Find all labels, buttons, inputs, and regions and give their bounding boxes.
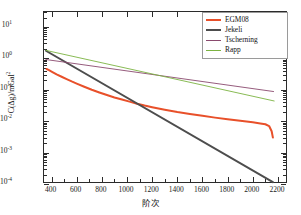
- y-tick-mark: [44, 184, 49, 185]
- y-tick-label-mantissa: 10: [0, 146, 8, 155]
- y-tick-label-exponent: -2: [8, 113, 13, 119]
- y-axis-title-base: C(Δg)/mGal: [7, 74, 16, 113]
- legend-swatch-jekeli: [206, 29, 221, 31]
- y-tick-label: 10-1: [0, 84, 12, 92]
- y-tick-label-exponent: -1: [8, 81, 13, 87]
- y-tick-label: 10-3: [0, 147, 12, 155]
- y-tick-label-exponent: -3: [8, 144, 13, 150]
- legend-item-tscherning[interactable]: Tscherning: [206, 35, 284, 45]
- series-line-jekeli: [46, 51, 273, 182]
- x-axis-title: 阶次: [0, 196, 301, 208]
- y-tick-label-exponent: 0: [9, 50, 12, 56]
- legend-swatch-egm08: [206, 19, 221, 21]
- y-tick-label: 100: [2, 52, 12, 60]
- legend-label: Jekeli: [225, 26, 242, 33]
- legend-item-rapp[interactable]: Rapp: [206, 45, 284, 55]
- legend: EGM08JekeliTscherningRapp: [202, 12, 288, 59]
- legend-label: Tscherning: [225, 36, 258, 43]
- legend-label: EGM08: [225, 16, 249, 23]
- series-line-egm08: [47, 69, 273, 138]
- figure-canvas: C(Δg)/mGal2 阶次 10110010-110-210-310-4 40…: [0, 0, 301, 215]
- y-tick-label: 10-4: [0, 178, 12, 186]
- y-tick-mark: [281, 184, 286, 185]
- legend-swatch-rapp: [206, 50, 221, 51]
- legend-label: Rapp: [225, 46, 241, 53]
- y-tick-label: 10-2: [0, 115, 12, 123]
- y-tick-label-exponent: 1: [9, 18, 12, 24]
- legend-item-egm08[interactable]: EGM08: [206, 15, 284, 25]
- y-tick-label-mantissa: 10: [0, 114, 8, 123]
- y-tick-label: 101: [2, 21, 12, 29]
- x-tick-label: 2200: [260, 186, 294, 194]
- y-tick-label-mantissa: 10: [0, 83, 8, 92]
- legend-item-jekeli[interactable]: Jekeli: [206, 25, 284, 35]
- y-axis-title-exponent: 2: [5, 72, 11, 75]
- y-tick-label-exponent: -4: [8, 176, 13, 182]
- legend-swatch-tscherning: [206, 40, 221, 41]
- y-tick-label-mantissa: 10: [0, 177, 8, 186]
